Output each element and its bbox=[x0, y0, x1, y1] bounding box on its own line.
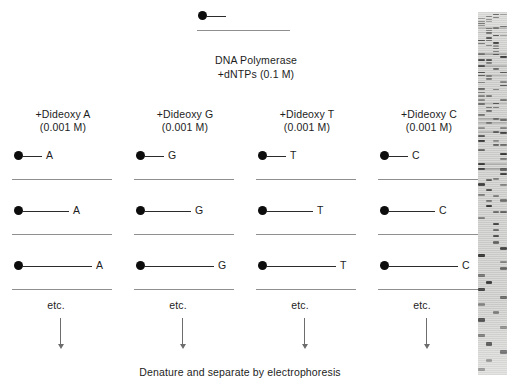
gel-band bbox=[493, 241, 499, 244]
gel-band bbox=[493, 51, 499, 52]
enzyme-label-line2: +dNTPs (0.1 M) bbox=[218, 68, 295, 80]
gel-band bbox=[500, 247, 506, 250]
gel-band bbox=[478, 82, 484, 84]
gel-smear bbox=[478, 65, 507, 66]
gel-band bbox=[478, 72, 484, 74]
gel-band bbox=[486, 30, 492, 31]
extended-primer-strand bbox=[144, 156, 164, 157]
template-strand bbox=[378, 179, 478, 180]
terminator-base-label: T bbox=[340, 260, 346, 271]
gel-band bbox=[493, 17, 499, 18]
gel-band bbox=[493, 140, 499, 142]
gel-band bbox=[493, 311, 499, 314]
gel-smear bbox=[478, 131, 507, 133]
gel-band bbox=[493, 48, 499, 49]
gel-band bbox=[478, 23, 484, 24]
gel-band bbox=[478, 135, 484, 137]
gel-band bbox=[493, 35, 499, 36]
gel-band bbox=[486, 107, 492, 109]
extended-primer-strand bbox=[266, 266, 336, 267]
gel-band bbox=[500, 199, 506, 201]
template-strand bbox=[256, 234, 356, 235]
gel-band bbox=[500, 144, 506, 146]
top-template-strand bbox=[197, 30, 290, 31]
gel-band bbox=[478, 95, 484, 97]
terminator-base-label: C bbox=[462, 260, 470, 271]
etc-label: etc. bbox=[291, 299, 309, 311]
gel-band bbox=[478, 368, 484, 372]
extended-primer-strand bbox=[388, 156, 408, 157]
gel-band bbox=[478, 99, 484, 101]
gel-band bbox=[478, 183, 484, 185]
gel-band bbox=[500, 99, 506, 101]
gel-band bbox=[486, 45, 492, 46]
gel-band bbox=[478, 25, 484, 26]
column-header-line1: +Dideoxy A bbox=[36, 108, 91, 120]
column-header-line1: +Dideoxy T bbox=[280, 108, 335, 120]
gel-band bbox=[478, 288, 484, 291]
gel-band bbox=[493, 144, 499, 146]
gel-band bbox=[493, 45, 499, 46]
gel-band bbox=[478, 140, 484, 142]
gel-band bbox=[478, 59, 484, 60]
gel-band bbox=[493, 195, 499, 197]
gel-band bbox=[500, 326, 506, 329]
gel-band bbox=[478, 92, 484, 94]
gel-band bbox=[486, 110, 492, 112]
gel-band bbox=[478, 43, 484, 44]
gel-band bbox=[478, 303, 484, 306]
gel-band bbox=[500, 211, 506, 214]
gel-band bbox=[493, 89, 499, 91]
gel-band bbox=[500, 35, 506, 36]
gel-band bbox=[486, 37, 492, 38]
gel-band bbox=[486, 40, 492, 41]
terminator-base-label: G bbox=[168, 150, 176, 161]
extended-primer-strand bbox=[144, 266, 214, 267]
extended-primer-strand bbox=[22, 266, 92, 267]
enzyme-label-line1: DNA Polymerase bbox=[215, 54, 297, 66]
terminator-base-label: A bbox=[46, 150, 53, 161]
extended-primer-strand bbox=[144, 211, 191, 212]
extended-primer-strand bbox=[388, 266, 458, 267]
gel-smear bbox=[478, 32, 507, 33]
gel-band bbox=[493, 42, 499, 43]
flow-arrow-down bbox=[421, 318, 432, 350]
gel-band bbox=[478, 194, 484, 196]
gel-band bbox=[486, 95, 492, 97]
terminator-base-label: C bbox=[412, 150, 420, 161]
gel-band bbox=[478, 40, 484, 41]
terminator-base-label: A bbox=[73, 205, 80, 216]
etc-label: etc. bbox=[47, 299, 65, 311]
template-strand bbox=[134, 234, 234, 235]
gel-band bbox=[486, 21, 492, 22]
terminator-base-label: G bbox=[218, 260, 226, 271]
template-strand bbox=[12, 179, 112, 180]
gel-smear bbox=[478, 75, 507, 76]
gel-band bbox=[500, 81, 506, 83]
gel-band bbox=[500, 267, 506, 270]
gel-band bbox=[500, 56, 506, 57]
gel-smear bbox=[478, 168, 507, 170]
gel-band bbox=[478, 254, 484, 257]
figure-caption: Denature and separate by electrophoresis bbox=[139, 366, 341, 378]
terminator-base-label: T bbox=[290, 150, 296, 161]
gel-smear bbox=[478, 122, 507, 124]
gel-band bbox=[493, 107, 499, 109]
gel-smear bbox=[478, 53, 507, 54]
etc-label: etc. bbox=[169, 299, 187, 311]
gel-band bbox=[486, 78, 492, 80]
gel-band bbox=[478, 127, 484, 129]
gel-band bbox=[486, 179, 492, 181]
sanger-sequencing-diagram: DNA Polymerase +dNTPs (0.1 M) +Dideoxy A… bbox=[0, 0, 513, 387]
gel-band bbox=[493, 235, 499, 238]
sequencing-gel-autoradiograph bbox=[478, 12, 507, 375]
gel-band bbox=[500, 158, 506, 160]
flow-arrow-down bbox=[299, 318, 310, 350]
gel-band bbox=[486, 205, 492, 207]
gel-band bbox=[500, 14, 506, 15]
template-strand bbox=[134, 179, 234, 180]
column-header-line2: (0.001 M) bbox=[284, 121, 330, 133]
gel-band bbox=[493, 223, 499, 226]
extended-primer-strand bbox=[22, 211, 69, 212]
top-primer-strand bbox=[206, 16, 226, 17]
